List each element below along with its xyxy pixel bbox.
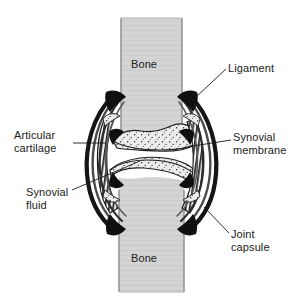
bone-upper	[121, 18, 182, 134]
label-bone-lower: Bone	[131, 252, 157, 265]
label-synovial-membrane: Synovial membrane	[233, 131, 286, 156]
label-ligament: Ligament	[228, 62, 274, 75]
label-bone-upper: Bone	[131, 58, 157, 71]
label-articular-cartilage: Articular cartilage	[14, 129, 56, 154]
synovial-joint-figure: Bone Bone Ligament Synovial membrane Joi…	[0, 0, 303, 306]
label-joint-capsule: Joint capsule	[231, 228, 270, 253]
label-synovial-fluid: Synovial fluid	[26, 186, 68, 211]
leader-joint-capsule	[204, 207, 229, 233]
leader-ligament	[196, 69, 226, 97]
bone-lower	[119, 176, 184, 292]
